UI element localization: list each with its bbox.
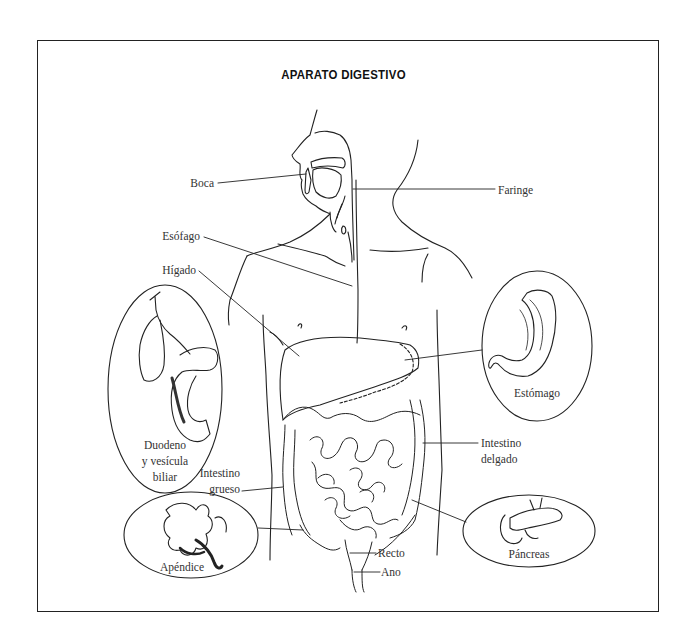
label-apendice: Apéndice xyxy=(160,560,204,574)
label-esofago: Esófago xyxy=(150,229,200,243)
label-higado: Hígado xyxy=(150,263,196,277)
neck-outline xyxy=(393,140,472,278)
head-outline xyxy=(247,110,358,343)
apendice-drawing xyxy=(164,503,226,568)
intestines xyxy=(283,400,425,592)
label-estomago: Estómago xyxy=(505,386,569,400)
estomago-drawing xyxy=(489,290,556,376)
label-recto: Recto xyxy=(378,546,405,560)
label-intestino-delgado: Intestino delgado xyxy=(481,436,521,466)
duodeno-drawing xyxy=(139,292,218,442)
label-pancreas: Páncreas xyxy=(500,547,558,561)
label-intestino-grueso: Intestino grueso xyxy=(190,466,240,496)
label-faringe: Faringe xyxy=(498,183,533,197)
label-duodeno-line1: Duodeno xyxy=(130,438,200,452)
label-ano: Ano xyxy=(381,565,401,579)
label-intestino-grueso-line2: grueso xyxy=(190,482,240,496)
digestive-system-illustration xyxy=(0,0,687,638)
label-intestino-delgado-line2: delgado xyxy=(481,452,521,466)
label-boca: Boca xyxy=(178,176,214,190)
label-intestino-grueso-line1: Intestino xyxy=(190,466,240,480)
leader-lines xyxy=(199,174,495,572)
label-intestino-delgado-line1: Intestino xyxy=(481,436,521,450)
pancreas-drawing xyxy=(500,498,562,544)
